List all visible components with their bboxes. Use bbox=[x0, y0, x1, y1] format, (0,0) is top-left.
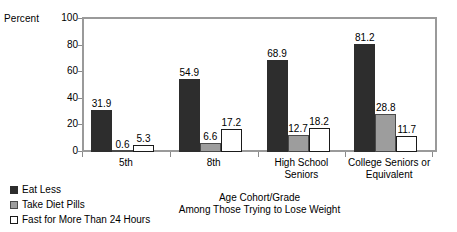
bar-group: 81.228.811.7 bbox=[354, 19, 417, 152]
bar-group: 54.96.617.2 bbox=[179, 19, 242, 152]
y-axis-tick-label: 0 bbox=[38, 146, 78, 156]
x-axis-tick-label: 8th bbox=[170, 157, 258, 169]
y-axis-tick-label: 40 bbox=[38, 93, 78, 103]
x-axis-tick-label-line: 5th bbox=[82, 157, 170, 169]
y-axis-tick-label: 60 bbox=[38, 66, 78, 76]
y-axis-tick-label: 20 bbox=[38, 119, 78, 129]
x-axis-tick-label: 5th bbox=[82, 157, 170, 169]
bar[interactable] bbox=[267, 60, 288, 152]
bar-value-label: 31.9 bbox=[85, 99, 118, 109]
x-axis-tick-label-line: Equivalent bbox=[345, 169, 433, 181]
bar-value-label: 28.8 bbox=[369, 103, 402, 113]
x-axis-tick-label-line: 8th bbox=[170, 157, 258, 169]
x-axis-tick-label-line: Seniors bbox=[258, 169, 346, 181]
legend-label: Eat Less bbox=[22, 185, 61, 195]
legend-swatch-icon bbox=[10, 216, 18, 224]
bar-value-label: 68.9 bbox=[261, 49, 294, 59]
legend-swatch-icon bbox=[10, 186, 18, 194]
bar-value-label: 17.2 bbox=[215, 118, 248, 128]
bar-value-label: 81.2 bbox=[348, 33, 381, 43]
bar[interactable] bbox=[200, 143, 221, 152]
x-axis-tick-label: College Seniors orEquivalent bbox=[345, 157, 433, 181]
bar[interactable] bbox=[288, 135, 309, 152]
bar[interactable] bbox=[396, 136, 417, 152]
y-axis-tick-label: 80 bbox=[38, 40, 78, 50]
bar-value-label: 5.3 bbox=[127, 134, 160, 144]
bar-value-label: 18.2 bbox=[303, 117, 336, 127]
bar-group: 68.912.718.2 bbox=[267, 19, 330, 152]
x-axis-tick-label: High SchoolSeniors bbox=[258, 157, 346, 181]
legend-item[interactable]: Fast for More Than 24 Hours bbox=[10, 213, 150, 227]
legend-item[interactable]: Take Diet Pills bbox=[10, 198, 150, 212]
plot-area: 31.90.65.354.96.617.268.912.718.281.228.… bbox=[84, 19, 435, 152]
bar[interactable] bbox=[354, 44, 375, 152]
bar[interactable] bbox=[133, 145, 154, 152]
bar[interactable] bbox=[309, 128, 330, 152]
bar-chart: Percent 020406080100 31.90.65.354.96.617… bbox=[0, 0, 457, 232]
legend-label: Take Diet Pills bbox=[22, 200, 85, 210]
bar[interactable] bbox=[221, 129, 242, 152]
legend-item[interactable]: Eat Less bbox=[10, 183, 150, 197]
y-axis-tick-label: 100 bbox=[38, 13, 78, 23]
bar-group: 31.90.65.3 bbox=[91, 19, 154, 152]
x-axis-tick-label-line: High School bbox=[258, 157, 346, 169]
legend: Eat LessTake Diet PillsFast for More Tha… bbox=[10, 183, 150, 228]
legend-label: Fast for More Than 24 Hours bbox=[22, 215, 150, 225]
bar-value-label: 54.9 bbox=[173, 68, 206, 78]
x-axis-tick-label-line: College Seniors or bbox=[345, 157, 433, 169]
bar-value-label: 11.7 bbox=[390, 125, 423, 135]
legend-swatch-icon bbox=[10, 201, 18, 209]
